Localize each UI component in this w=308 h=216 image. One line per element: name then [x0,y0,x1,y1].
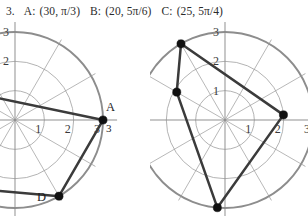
worksheet-page: 3. A: (30, π/3) B: (20, 5π/6) C: (25, 5π… [0,0,308,216]
x-tick-label-1: 1 [245,122,251,136]
grid-spoke-60 [225,44,269,120]
grid-spoke-240 [181,120,225,196]
point-spec-c-label: C: [162,5,173,17]
data-point-1 [173,88,181,96]
y-tick-label-3: 3 [3,25,9,39]
x-tick-label-1: 1 [35,122,41,136]
point-spec-a: A: (30, π/3) [24,5,80,17]
grid-spoke-330 [15,120,91,164]
point-spec-a-value: (30, π/3) [40,5,81,17]
data-point-value-3: 3 [106,122,112,134]
data-segment-3 [181,44,283,115]
data-point-label-D: D [37,190,46,204]
polar-plot-right-canvas: 123123 [150,22,308,216]
y-tick-label-2: 2 [3,54,9,68]
x-tick-label-2: 2 [65,122,71,136]
data-point-D [55,192,63,200]
polar-plot-right: 123123 [150,22,308,216]
y-tick-label-1: 1 [213,84,219,98]
data-point-label-A: A [106,100,115,114]
grid-spoke-150 [150,76,225,120]
grid-spoke-210 [150,120,225,164]
point-spec-b-value: (20, 5π/6) [105,5,151,17]
polar-plot-left: 12323A3D [0,22,150,216]
point-spec-b-label: B: [90,5,101,17]
problem-header: 3. A: (30, π/3) B: (20, 5π/6) C: (25, 5π… [0,0,308,22]
point-spec-a-label: A: [24,5,36,17]
question-number: 3. [6,5,15,17]
data-point-2 [279,111,287,119]
x-tick-label-3: 3 [304,122,308,136]
data-segment-1 [177,92,218,208]
data-point-0 [177,40,185,48]
data-point-3 [213,204,221,212]
point-spec-b: B: (20, 5π/6) [90,5,151,17]
y-tick-label-3: 3 [213,25,219,39]
grid-spoke-30 [15,76,91,120]
data-segment-0 [177,44,181,92]
point-spec-c: C: (25, 5π/4) [162,5,223,17]
point-spec-c-value: (25, 5π/4) [177,5,223,17]
grid-spoke-240 [0,120,15,196]
polar-plot-left-canvas: 12323A3D [0,22,150,216]
